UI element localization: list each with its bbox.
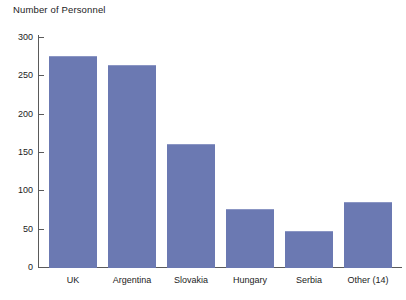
- bar: [108, 65, 156, 268]
- y-tick-label: 50: [0, 224, 33, 233]
- y-tick-label: 0: [0, 263, 33, 272]
- y-tick-label: 150: [0, 148, 33, 157]
- x-axis-label: Hungary: [220, 276, 280, 285]
- y-tick-mark: [38, 114, 44, 115]
- y-tick-mark: [38, 152, 44, 153]
- x-axis-label: Argentina: [102, 276, 162, 285]
- y-tick-label: 100: [0, 186, 33, 195]
- x-axis-label: Other (14): [338, 276, 398, 285]
- bar: [49, 56, 97, 268]
- y-tick-mark: [38, 190, 44, 191]
- bar: [167, 144, 215, 268]
- chart-title: Number of Personnel: [13, 4, 106, 15]
- bar: [226, 209, 274, 268]
- bar-chart: Number of Personnel 050100150200250300 U…: [0, 0, 406, 300]
- y-tick-mark: [38, 229, 44, 230]
- x-axis-label: Serbia: [279, 276, 339, 285]
- y-tick-label: 200: [0, 109, 33, 118]
- y-tick-label: 300: [0, 33, 33, 42]
- bar: [285, 231, 333, 268]
- y-tick-mark: [38, 75, 44, 76]
- x-axis-label: UK: [43, 276, 103, 285]
- y-tick-mark: [38, 267, 44, 268]
- y-tick-label: 250: [0, 71, 33, 80]
- bar: [344, 202, 392, 268]
- y-tick-mark: [38, 37, 44, 38]
- x-axis-label: Slovakia: [161, 276, 221, 285]
